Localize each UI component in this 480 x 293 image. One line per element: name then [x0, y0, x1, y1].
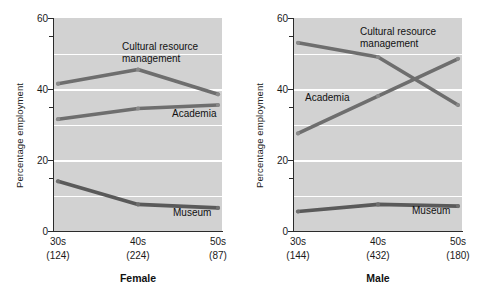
data-point — [136, 202, 140, 206]
x-count-50s: (87) — [195, 250, 241, 261]
data-point — [216, 206, 220, 210]
series-annotation-crm-line1: Cultural resource — [122, 41, 198, 52]
data-point — [296, 41, 300, 45]
x-tick-40s: 40s — [116, 236, 160, 247]
x-tick-30s: 30s — [36, 236, 80, 247]
x-tick-40s: 40s — [356, 236, 400, 247]
series-annotation-academia: Academia — [305, 92, 349, 104]
data-point — [216, 103, 220, 107]
x-tick-50s: 50s — [436, 236, 480, 247]
data-point — [456, 103, 460, 107]
data-point — [296, 209, 300, 213]
data-point — [136, 67, 140, 71]
x-count-40s: (224) — [115, 250, 161, 261]
series-annotation-museum: Museum — [412, 205, 450, 217]
panel-female: Percentage employment 60 40 20 0 — [0, 0, 240, 293]
figure-two-panel-line-chart: Percentage employment 60 40 20 0 — [0, 0, 480, 293]
data-point — [136, 106, 140, 110]
data-point — [296, 131, 300, 135]
data-point — [376, 202, 380, 206]
x-count-30s: (124) — [35, 250, 81, 261]
data-point — [56, 117, 60, 121]
data-point — [456, 57, 460, 61]
series-annotation-crm-line2: management — [360, 38, 418, 49]
series-annotation-museum: Museum — [173, 207, 211, 219]
x-count-50s: (180) — [435, 250, 480, 261]
series-annotation-crm: Cultural resource management — [122, 41, 198, 64]
data-point — [376, 94, 380, 98]
data-point — [56, 179, 60, 183]
x-tick-50s: 50s — [196, 236, 240, 247]
x-count-40s: (432) — [355, 250, 401, 261]
x-tick-30s: 30s — [276, 236, 320, 247]
series-annotation-crm: Cultural resource management — [360, 26, 436, 49]
series-annotation-crm-line2: management — [122, 53, 180, 64]
data-point — [456, 204, 460, 208]
series-line-crm — [58, 70, 218, 95]
data-point — [216, 92, 220, 96]
series-annotation-academia: Academia — [172, 108, 216, 120]
panel-title-male: Male — [318, 272, 438, 284]
panel-male: Percentage employment 60 40 20 0 — [240, 0, 480, 293]
panel-title-female: Female — [78, 272, 198, 284]
series-annotation-crm-line1: Cultural resource — [360, 26, 436, 37]
data-point — [56, 82, 60, 86]
x-count-30s: (144) — [275, 250, 321, 261]
data-point — [376, 55, 380, 59]
